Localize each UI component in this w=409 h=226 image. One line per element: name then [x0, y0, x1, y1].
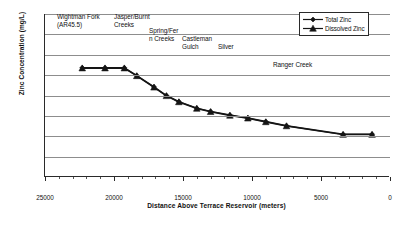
x-tick-minor — [238, 177, 239, 179]
x-tick-minor — [86, 177, 87, 179]
x-tick-label: 15000 — [160, 194, 206, 201]
legend-glyph — [311, 17, 316, 22]
x-tick-minor — [197, 177, 198, 179]
x-tick-label: 5000 — [298, 194, 344, 201]
zinc-concentration-chart: Zinc Concentration (mg/L) 00.050.10.150.… — [0, 0, 409, 226]
y-axis-title: Zinc Concentration (mg/L) — [18, 0, 25, 119]
x-tick-label: 25000 — [22, 194, 68, 201]
x-tick-minor — [73, 177, 74, 179]
chart-legend: Total ZincDissolved Zinc — [299, 12, 369, 36]
x-tick-major — [390, 177, 391, 181]
x-tick-minor — [142, 177, 143, 179]
x-tick-minor — [280, 177, 281, 179]
x-tick-minor — [100, 177, 101, 179]
x-tick-label: 0 — [367, 194, 409, 201]
x-tick-minor — [128, 177, 129, 179]
gridline — [45, 157, 390, 158]
legend-item: Dissolved Zinc — [302, 24, 365, 33]
site-annotation: Spring/Fer n Creeks — [149, 27, 178, 42]
x-tick-major — [252, 177, 253, 181]
x-tick-label: 10000 — [229, 194, 275, 201]
x-tick-minor — [335, 177, 336, 179]
x-tick-minor — [376, 177, 377, 179]
x-tick-minor — [266, 177, 267, 179]
x-tick-minor — [155, 177, 156, 179]
x-tick-minor — [59, 177, 60, 179]
site-annotation: Wightman Fork (AR45.5) — [57, 13, 100, 28]
legend-marker-triangle — [302, 24, 324, 33]
plot-area: 00.050.10.150.20.250.30.350.425000200001… — [44, 14, 389, 177]
site-annotation: Ranger Creek — [273, 61, 312, 69]
gridline — [45, 55, 390, 56]
x-tick-minor — [362, 177, 363, 179]
site-annotation: Castleman Gulch — [182, 35, 212, 50]
x-tick-minor — [307, 177, 308, 179]
x-tick-minor — [293, 177, 294, 179]
x-tick-minor — [211, 177, 212, 179]
legend-marker-diamond — [302, 15, 324, 24]
x-tick-minor — [349, 177, 350, 179]
gridline — [45, 96, 390, 97]
series-line — [82, 68, 372, 134]
x-tick-major — [45, 177, 46, 181]
legend-label: Dissolved Zinc — [324, 25, 365, 32]
gridline — [45, 116, 390, 117]
site-annotation: Jasper/Burnt Creeks — [114, 13, 150, 28]
gridline — [45, 75, 390, 76]
x-tick-label: 20000 — [91, 194, 137, 201]
x-axis-title: Distance Above Terrace Reservoir (meters… — [44, 202, 389, 209]
x-tick-minor — [224, 177, 225, 179]
series-line — [82, 68, 372, 134]
x-tick-major — [183, 177, 184, 181]
site-annotation: Silver — [218, 43, 234, 51]
legend-item: Total Zinc — [302, 15, 365, 24]
x-tick-minor — [169, 177, 170, 179]
x-tick-major — [321, 177, 322, 181]
legend-label: Total Zinc — [324, 16, 351, 23]
x-tick-major — [114, 177, 115, 181]
gridline — [45, 136, 390, 137]
